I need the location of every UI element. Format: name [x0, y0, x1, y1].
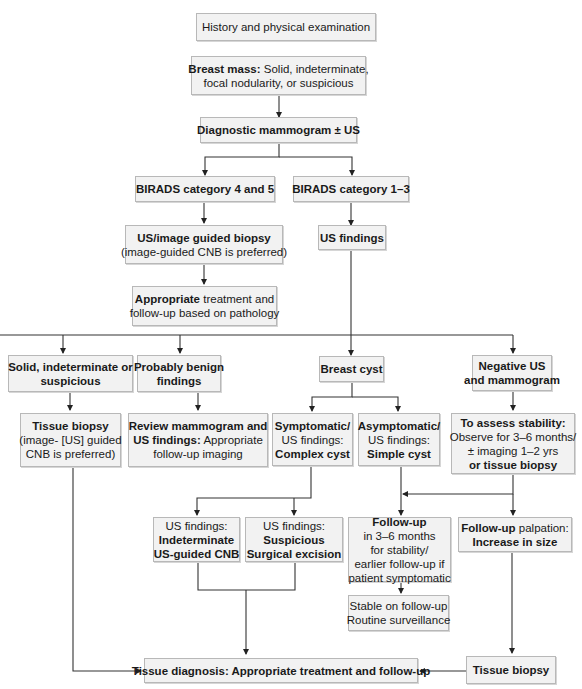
node-history: History and physical examination: [196, 13, 376, 41]
node-symptomatic-complex-cyst: Symptomatic/ US findings: Complex cyst: [272, 413, 353, 466]
node-assess-stability: To assess stability: Observe for 3–6 mon…: [451, 413, 575, 474]
node-appropriate-treatment: Appropriate treatment and follow-up base…: [132, 286, 277, 326]
node-tissue-biopsy-right: Tissue biopsy: [466, 656, 556, 684]
node-stable-surveillance: Stable on follow-up Routine surveillance: [348, 595, 449, 631]
node-breast-cyst: Breast cyst: [319, 356, 384, 382]
node-follow-up: Follow-up in 3–6 months for stability/ e…: [348, 517, 451, 582]
node-review-mammogram: Review mammogram and US findings: Approp…: [128, 413, 268, 467]
node-indeterminate-cnb: US findings: Indeterminate US-guided CNB: [153, 517, 240, 562]
node-negative-us: Negative US and mammogram: [472, 355, 552, 391]
node-diagnostic-mammogram: Diagnostic mammogram ± US: [200, 117, 357, 143]
node-tissue-diagnosis: Tissue diagnosis: Appropriate treatment …: [144, 658, 418, 683]
node-suspicious-excision: US findings: Suspicious Surgical excisio…: [245, 517, 343, 562]
node-solid-indeterminate: Solid, indeterminate or suspicious: [8, 355, 133, 392]
connector-lines: [0, 0, 582, 689]
node-us-guided-biopsy: US/image guided biopsy (image-guided CNB…: [125, 225, 283, 264]
node-probably-benign: Probably benign findings: [137, 355, 221, 392]
node-us-findings: US findings: [318, 225, 386, 250]
node-birads-1-3: BIRADS category 1–3: [293, 176, 409, 202]
node-birads-4-5: BIRADS category 4 and 5: [135, 176, 275, 202]
node-tissue-biopsy-left: Tissue biopsy (image- [US] guided CNB is…: [20, 413, 121, 467]
node-follow-up-palpation: Follow-up palpation: Increase in size: [458, 517, 572, 552]
node-breast-mass: Breast mass: Solid, indeterminate, focal…: [191, 56, 366, 95]
node-asymptomatic-simple-cyst: Asymptomatic/ US findings: Simple cyst: [358, 413, 440, 466]
